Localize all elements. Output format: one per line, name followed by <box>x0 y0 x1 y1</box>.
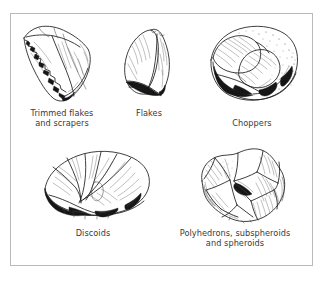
stone-tool-trimmed-flake-icon <box>18 22 102 106</box>
stone-tool-flake-icon <box>116 24 178 104</box>
specimen-trimmed-flakes <box>18 22 102 106</box>
specimen-polyhedrons <box>190 143 294 231</box>
figure-plate: Trimmed flakes and scrapers <box>0 0 327 282</box>
caption-discoids: Discoids <box>50 228 136 238</box>
specimen-flakes <box>116 24 178 104</box>
specimen-choppers <box>199 22 303 114</box>
specimen-discoids <box>39 145 155 227</box>
stone-tool-discoid-icon <box>39 145 155 227</box>
caption-polyhedrons: Polyhedrons, subspheroids and spheroids <box>160 228 310 248</box>
caption-flakes: Flakes <box>112 108 186 118</box>
caption-choppers: Choppers <box>206 118 298 128</box>
stone-tool-chopper-icon <box>199 22 303 114</box>
stone-tool-polyhedron-icon <box>190 143 294 231</box>
caption-trimmed-flakes: Trimmed flakes and scrapers <box>12 108 112 128</box>
